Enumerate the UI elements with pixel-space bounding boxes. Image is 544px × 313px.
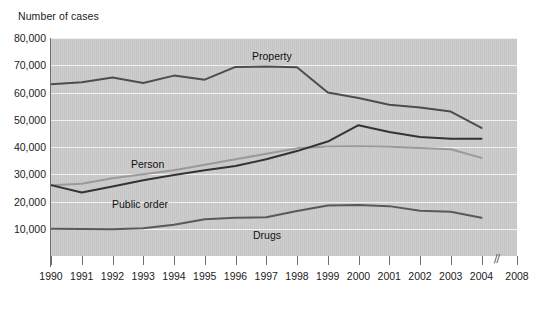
x-axis-tick-label: 2002	[408, 270, 431, 282]
y-axis-tick-label: 40,000	[0, 141, 46, 153]
x-axis-tick	[328, 256, 329, 265]
series-label-person: Person	[131, 158, 164, 170]
series-lines	[51, 38, 517, 256]
y-axis-tick-label: 80,000	[0, 32, 46, 44]
x-axis-tick	[51, 256, 52, 265]
y-axis-line	[50, 38, 51, 267]
y-axis-tick-label: 30,000	[0, 168, 46, 180]
x-axis-tick-label: 2000	[347, 270, 370, 282]
x-axis-tick	[236, 256, 237, 265]
series-line-property	[51, 67, 482, 128]
y-axis-tick-label: 10,000	[0, 223, 46, 235]
x-axis-tick-label: 2004	[470, 270, 493, 282]
x-axis-tick-label: 1997	[255, 270, 278, 282]
y-axis-tick-label: 60,000	[0, 87, 46, 99]
y-axis-tick-label: 70,000	[0, 59, 46, 71]
y-axis-title: Number of cases	[18, 10, 99, 22]
x-axis-tick	[143, 256, 144, 265]
x-axis-tick	[451, 256, 452, 265]
x-axis-tick-label: 2001	[378, 270, 401, 282]
x-axis-tick	[82, 256, 83, 265]
x-axis-tick-label: 1999	[316, 270, 339, 282]
x-axis-tick	[266, 256, 267, 265]
line-chart: Number of cases 10,00020,00030,00040,000…	[0, 0, 544, 313]
series-label-public-order: Public order	[112, 198, 168, 210]
x-axis-tick-label: 1991	[70, 270, 93, 282]
x-axis-tick	[420, 256, 421, 265]
x-axis-tick-label: 2008	[505, 270, 528, 282]
x-axis-tick	[389, 256, 390, 265]
x-axis-tick-label: 1993	[132, 270, 155, 282]
x-axis-tick	[517, 256, 518, 265]
x-axis-tick	[297, 256, 298, 265]
x-axis-tick	[205, 256, 206, 265]
x-axis-tick	[113, 256, 114, 265]
x-axis-tick-label: 1992	[101, 270, 124, 282]
series-label-property: Property	[252, 50, 292, 62]
y-axis-tick-label: 20,000	[0, 196, 46, 208]
x-axis-tick	[174, 256, 175, 265]
y-axis-tick-label: 50,000	[0, 114, 46, 126]
x-axis-tick-label: 2003	[439, 270, 462, 282]
series-line-public-order	[51, 125, 482, 192]
x-axis-tick-label: 1996	[224, 270, 247, 282]
x-axis-tick-label: 1994	[162, 270, 185, 282]
series-line-person	[51, 146, 482, 185]
plot-area	[51, 38, 517, 256]
x-axis-tick	[482, 256, 483, 265]
x-axis-tick-label: 1990	[39, 270, 62, 282]
x-axis-tick-label: 1998	[285, 270, 308, 282]
x-axis-tick	[359, 256, 360, 265]
series-label-drugs: Drugs	[253, 229, 281, 241]
x-axis-tick-label: 1995	[193, 270, 216, 282]
